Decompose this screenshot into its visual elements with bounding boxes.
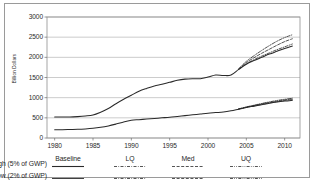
plot-frame: [45, 17, 301, 141]
series-lines: [55, 35, 293, 130]
x-tick-label: 1980: [39, 142, 71, 149]
y-tick-label: 1500: [13, 74, 43, 81]
x-tick-label: 1985: [77, 142, 109, 149]
x-tick-label: 2005: [230, 142, 262, 149]
legend-column-header: Med: [171, 155, 205, 162]
y-tick-label: 1000: [13, 94, 43, 101]
legend-line-swatch: [171, 177, 205, 180]
legend-line-swatch: [113, 177, 147, 180]
legend-column-header: UQ: [229, 155, 263, 162]
legend-row-label: High (5% of GWP): [0, 160, 47, 167]
y-tick-label: 2500: [13, 33, 43, 40]
legend-column-header: LQ: [113, 155, 147, 162]
y-tick-label: 3000: [13, 13, 43, 20]
chart-plot-area: [5, 4, 311, 179]
legend-line-swatch: [51, 177, 85, 180]
legend-line-swatch: [171, 165, 205, 168]
x-tick-label: 1990: [115, 142, 147, 149]
series-line: [55, 46, 293, 117]
chart-legend: BaselineLQMedUQHigh (5% of GWP)Low (2% o…: [51, 154, 313, 186]
x-tick-label: 2010: [269, 142, 301, 149]
legend-line-swatch: [51, 165, 85, 168]
legend-line-swatch: [229, 165, 263, 168]
legend-column-header: Baseline: [51, 155, 85, 162]
y-axis-title: Billion Dollars: [12, 39, 17, 99]
gridlines: [47, 17, 300, 138]
y-tick-label: 0: [13, 134, 43, 141]
x-tick-label: 1995: [154, 142, 186, 149]
legend-line-swatch: [113, 165, 147, 168]
legend-row-label: Low (2% of GWP): [0, 172, 47, 179]
legend-line-swatch: [229, 177, 263, 180]
y-tick-label: 2000: [13, 53, 43, 60]
x-tick-label: 2000: [192, 142, 224, 149]
figure-frame: Billion Dollars 050010001500200025003000…: [4, 3, 310, 178]
figure-container: Billion Dollars 050010001500200025003000…: [0, 0, 318, 187]
y-tick-label: 500: [13, 114, 43, 121]
